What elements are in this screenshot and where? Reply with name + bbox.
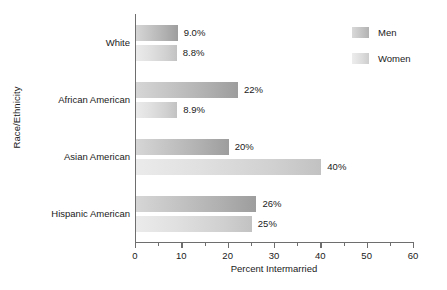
x-axis-tick <box>367 242 368 248</box>
bar-chart: Race/Ethnicity WhiteAfrican AmericanAsia… <box>0 0 447 290</box>
legend-label-women: Women <box>378 53 411 64</box>
x-axis-tick <box>274 242 275 248</box>
bar-men-white <box>136 25 178 41</box>
legend-item-men: Men <box>352 26 411 39</box>
bar-value-label: 20% <box>235 139 254 155</box>
legend-label-men: Men <box>378 27 396 38</box>
y-axis-label-asian-american: Asian American <box>10 151 130 162</box>
x-axis-tick-label: 30 <box>259 250 289 261</box>
y-axis-label-hispanic-american: Hispanic American <box>10 208 130 219</box>
y-axis-label-white: White <box>10 37 130 48</box>
bar-value-label: 9.0% <box>184 25 206 41</box>
x-axis-tick-label: 10 <box>166 250 196 261</box>
legend-swatch-women <box>352 53 369 64</box>
x-axis-tick <box>228 242 229 248</box>
bar-value-label: 26% <box>262 196 281 212</box>
x-axis-tick-label: 0 <box>120 250 150 261</box>
x-axis-minor-tick <box>251 242 252 246</box>
x-axis-minor-tick <box>344 242 345 246</box>
x-axis-tick <box>181 242 182 248</box>
bar-value-label: 22% <box>244 82 263 98</box>
bar-women-african-american <box>136 102 177 118</box>
legend-item-women: Women <box>352 52 411 65</box>
x-axis-tick <box>135 242 136 248</box>
y-axis-label-african-american: African American <box>10 94 130 105</box>
x-axis-tick <box>320 242 321 248</box>
bar-value-label: 25% <box>258 216 277 232</box>
legend-swatch-men <box>352 27 369 38</box>
x-axis-tick-label: 50 <box>352 250 382 261</box>
x-axis-tick-label: 40 <box>305 250 335 261</box>
x-axis-minor-tick <box>205 242 206 246</box>
x-axis-minor-tick <box>297 242 298 246</box>
x-axis-minor-tick <box>390 242 391 246</box>
x-axis-title: Percent Intermarried <box>135 263 413 274</box>
bar-women-white <box>136 45 177 61</box>
bar-men-hispanic-american <box>136 196 256 212</box>
bar-men-african-american <box>136 82 238 98</box>
x-axis-tick-label: 60 <box>398 250 428 261</box>
chart-legend: MenWomen <box>352 26 411 78</box>
bar-value-label: 8.8% <box>183 45 205 61</box>
x-axis-minor-tick <box>158 242 159 246</box>
y-axis-category-labels: WhiteAfrican AmericanAsian AmericanHispa… <box>8 0 130 290</box>
bar-women-hispanic-american <box>136 216 252 232</box>
bar-value-label: 8.9% <box>183 102 205 118</box>
x-axis-tick <box>413 242 414 248</box>
bar-value-label: 40% <box>327 159 346 175</box>
bar-men-asian-american <box>136 139 229 155</box>
x-axis-tick-label: 20 <box>213 250 243 261</box>
bar-women-asian-american <box>136 159 321 175</box>
